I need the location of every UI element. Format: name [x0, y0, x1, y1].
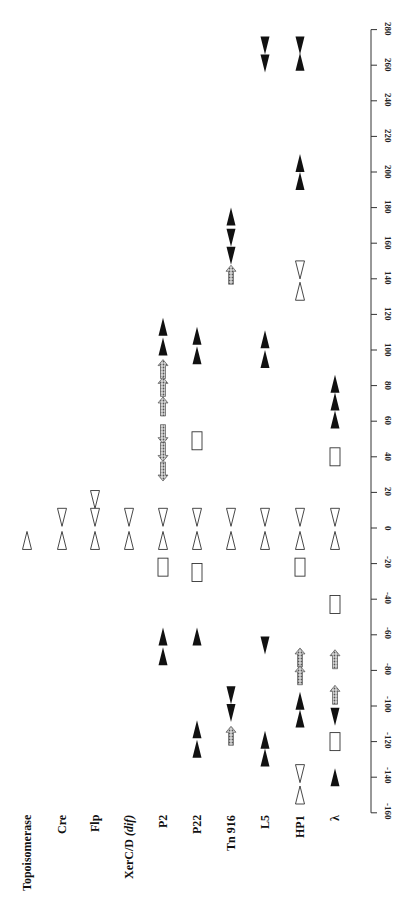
hatched-arrow-down-icon [158, 425, 168, 444]
hatched-arrow-up-icon [158, 377, 168, 396]
open-triangle-down-icon [331, 508, 340, 526]
tick-label: -60 [383, 627, 393, 639]
track-label: Flp [88, 815, 103, 832]
track-label: XerC/D (dif) [122, 815, 137, 879]
filled-triangle-up-icon [227, 208, 236, 226]
hatched-arrow-up-icon [158, 397, 168, 416]
track-5 [192, 327, 202, 758]
open-triangle-down-icon [296, 261, 305, 279]
tick-label: 40 [383, 452, 393, 461]
filled-triangle-up-icon [159, 628, 168, 646]
hatched-arrow-up-icon [330, 685, 340, 704]
open-triangle-down-icon [261, 508, 270, 526]
open-triangle-up-icon [296, 531, 305, 549]
track-label: Topoisomerase [20, 815, 35, 891]
open-rectangle-icon [192, 432, 202, 450]
track-label-text: P2 [156, 815, 170, 828]
track-7 [261, 37, 270, 767]
tick-label: 240 [383, 93, 393, 107]
track-label-text: L5 [258, 815, 272, 829]
filled-triangle-down-icon [261, 54, 270, 72]
filled-triangle-up-icon [331, 768, 340, 786]
track-label-text: P22 [190, 815, 204, 834]
open-triangle-down-icon [125, 508, 134, 526]
filled-triangle-up-icon [193, 327, 202, 345]
track-4 [158, 318, 168, 665]
open-triangle-up-icon [125, 531, 134, 549]
tick-label: 80 [383, 381, 393, 390]
track-label: HP1 [293, 815, 308, 838]
open-rectangle-icon [158, 558, 168, 576]
tick-label: 260 [383, 58, 393, 72]
open-triangle-down-icon [58, 508, 67, 526]
filled-triangle-up-icon [193, 346, 202, 364]
track-label: λ [328, 815, 343, 821]
filled-triangle-down-icon [261, 636, 270, 654]
tick-label: 180 [383, 200, 393, 214]
filled-triangle-up-icon [296, 154, 305, 172]
track-0 [23, 531, 32, 549]
filled-triangle-up-icon [159, 337, 168, 355]
track-2 [91, 491, 100, 550]
track-label-text: Tn 916 [224, 815, 238, 851]
track-1 [58, 508, 67, 549]
hatched-arrow-up-icon [226, 726, 236, 745]
tick-label: 60 [383, 416, 393, 425]
filled-triangle-down-icon [261, 37, 270, 55]
track-label: Tn 916 [224, 815, 239, 851]
open-rectangle-icon [295, 558, 305, 576]
open-rectangle-icon [330, 733, 340, 751]
open-triangle-up-icon [296, 282, 305, 300]
open-triangle-up-icon [23, 531, 32, 549]
track-9 [330, 375, 340, 786]
tick-label: -20 [383, 556, 393, 568]
track-label-text: λ [328, 815, 342, 821]
tick-label: 120 [383, 307, 393, 321]
open-triangle-down-icon [91, 491, 100, 509]
hatched-arrow-up-icon [330, 650, 340, 669]
track-label: Cre [55, 815, 70, 834]
hatched-arrow-up-icon [295, 666, 305, 685]
filled-triangle-up-icon [193, 740, 202, 758]
filled-triangle-up-icon [296, 709, 305, 727]
open-triangle-up-icon [193, 531, 202, 549]
open-triangle-up-icon [91, 531, 100, 549]
filled-triangle-down-icon [227, 704, 236, 722]
tick-label: 140 [383, 271, 393, 285]
filled-triangle-up-icon [331, 393, 340, 411]
filled-triangle-down-icon [227, 247, 236, 265]
open-triangle-up-icon [296, 786, 305, 804]
hatched-arrow-down-icon [158, 442, 168, 461]
open-triangle-up-icon [227, 531, 236, 549]
filled-triangle-up-icon [193, 720, 202, 738]
open-triangle-up-icon [261, 531, 270, 549]
track-label: L5 [258, 815, 273, 829]
tick-label: -140 [383, 767, 393, 784]
open-triangle-down-icon [227, 508, 236, 526]
track-label-text: Flp [88, 815, 102, 832]
tick-label: -120 [383, 732, 393, 749]
open-triangle-down-icon [159, 508, 168, 526]
filled-triangle-up-icon [159, 647, 168, 665]
open-triangle-down-icon [296, 765, 305, 783]
diagram-canvas [0, 0, 399, 898]
track-label-text: Cre [55, 815, 69, 834]
filled-triangle-up-icon [261, 731, 270, 749]
hatched-arrow-up-icon [226, 265, 236, 284]
tick-label: 220 [383, 129, 393, 143]
tick-label: 20 [383, 487, 393, 496]
filled-triangle-down-icon [227, 229, 236, 247]
track-label-italic: (dif) [122, 815, 136, 836]
track-label-text: HP1 [293, 815, 307, 838]
tick-label: 200 [383, 165, 393, 179]
open-triangle-up-icon [159, 531, 168, 549]
filled-triangle-up-icon [261, 330, 270, 348]
recombination-site-diagram: TopoisomeraseCreFlpXerC/D (dif)P2P22Tn 9… [0, 0, 399, 898]
filled-triangle-up-icon [296, 172, 305, 190]
filled-triangle-down-icon [331, 708, 340, 726]
track-label-text: XerC/D [122, 836, 136, 879]
tick-label: 100 [383, 343, 393, 357]
filled-triangle-up-icon [159, 318, 168, 336]
filled-triangle-down-icon [296, 37, 305, 55]
tick-label: -40 [383, 592, 393, 604]
